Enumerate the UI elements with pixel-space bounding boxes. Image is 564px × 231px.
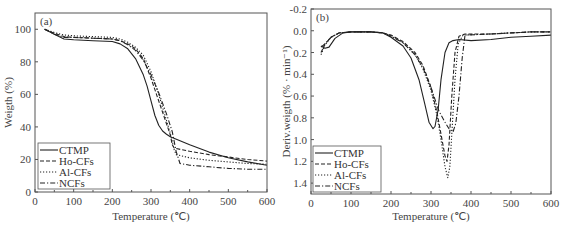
- y-tick-label: 0.8: [293, 112, 307, 124]
- x-tick-label: 0: [32, 195, 38, 207]
- x-tick-label: 500: [503, 197, 520, 209]
- x-tick-label: 500: [220, 195, 237, 207]
- x-tick-label: 400: [181, 195, 198, 207]
- figure: 0100200300400500600020406080100Temperatu…: [0, 0, 564, 231]
- legend-item-ncfs: NCFs: [59, 177, 85, 189]
- y-tick-label: 1.4: [293, 177, 307, 189]
- y-tick-label: 20: [20, 153, 32, 165]
- y-tick-label: 80: [20, 56, 32, 68]
- x-tick-label: 200: [104, 195, 121, 207]
- y-tick-label: 40: [20, 121, 32, 133]
- y-tick-label: -0.2: [290, 3, 307, 15]
- y-tick-label: 0.0: [293, 25, 307, 37]
- y-tick-label: 100: [15, 23, 32, 35]
- legend: CTMPHo-CFsAl-CFsNCFs: [313, 146, 381, 192]
- x-tick-label: 0: [308, 197, 314, 209]
- y-tick-label: 1.0: [293, 134, 307, 146]
- y-tick-label: 1.2: [293, 155, 307, 167]
- x-tick-label: 300: [423, 197, 440, 209]
- chart-panel-b: 0100200300400500600-0.20.00.20.40.60.81.…: [280, 3, 560, 223]
- chart-panel-a: 0100200300400500600020406080100Temperatu…: [2, 13, 276, 223]
- x-tick-label: 100: [65, 195, 82, 207]
- y-tick-label: 60: [20, 88, 32, 100]
- series-ncfs: [321, 32, 551, 132]
- x-tick-label: 400: [463, 197, 480, 209]
- y-axis-label: Deriv.weigth (% · min⁻¹): [280, 45, 293, 157]
- legend: CTMPHo-CFsAl-CFsNCFs: [38, 143, 110, 189]
- y-tick-label: 0.2: [293, 47, 307, 59]
- x-axis-label: Temperature (℃): [112, 210, 190, 223]
- y-tick-label: 0.4: [293, 68, 307, 80]
- x-tick-label: 200: [383, 197, 400, 209]
- x-tick-label: 600: [259, 195, 276, 207]
- y-tick-label: 0.6: [293, 90, 307, 102]
- x-axis-label: Temperature (℃): [392, 210, 470, 223]
- panel-label: (b): [316, 11, 329, 24]
- series-ctmp: [321, 32, 551, 129]
- series-ho-cfs: [321, 32, 551, 162]
- panel-label: (a): [40, 15, 53, 28]
- y-axis-label: Weigth (%): [2, 77, 15, 128]
- series-ho-cfs: [45, 29, 267, 161]
- x-tick-label: 100: [343, 197, 360, 209]
- x-tick-label: 600: [543, 197, 560, 209]
- legend-item-ncfs: NCFs: [334, 180, 360, 192]
- y-tick-label: 0: [26, 186, 32, 198]
- x-tick-label: 300: [143, 195, 160, 207]
